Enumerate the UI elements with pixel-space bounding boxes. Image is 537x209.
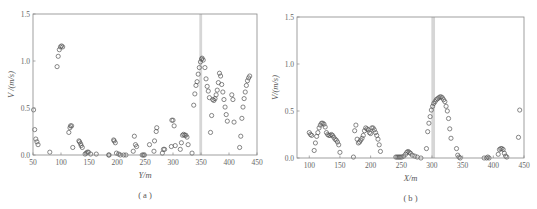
data-point bbox=[222, 97, 226, 101]
data-point bbox=[354, 123, 358, 127]
plot-frame bbox=[33, 14, 257, 155]
data-point bbox=[454, 147, 458, 151]
data-point bbox=[427, 121, 431, 125]
y-tick-label: 1.5 bbox=[285, 13, 295, 22]
x-tick-label: 350 bbox=[195, 158, 207, 167]
data-point bbox=[223, 105, 227, 109]
data-point bbox=[241, 105, 245, 109]
data-point bbox=[179, 141, 183, 145]
data-point bbox=[231, 97, 235, 101]
data-point bbox=[203, 65, 207, 69]
data-point bbox=[444, 104, 448, 108]
chart-caption: ( a ) bbox=[138, 190, 152, 200]
x-tick-label: 250 bbox=[139, 158, 151, 167]
data-point bbox=[215, 88, 219, 92]
x-tick-label: 200 bbox=[111, 158, 123, 167]
data-point bbox=[313, 141, 317, 145]
data-point bbox=[243, 90, 247, 94]
x-axis-label: Y/m bbox=[138, 170, 151, 180]
x-tick-label: 50 bbox=[29, 158, 37, 167]
data-point bbox=[376, 137, 380, 141]
data-point bbox=[244, 83, 248, 87]
data-point bbox=[413, 154, 417, 158]
scatter-points bbox=[307, 95, 522, 160]
x-axis-label: X/m bbox=[403, 173, 418, 183]
x-tick-label: 150 bbox=[334, 161, 346, 170]
data-point bbox=[369, 131, 373, 135]
data-point bbox=[316, 131, 320, 135]
y-tick-label: 1.0 bbox=[21, 57, 31, 66]
data-point bbox=[448, 127, 452, 131]
x-tick-label: 450 bbox=[518, 161, 530, 170]
data-point bbox=[67, 130, 71, 134]
data-point bbox=[71, 145, 75, 149]
data-point bbox=[221, 90, 225, 94]
data-point bbox=[178, 147, 182, 151]
data-point bbox=[208, 130, 212, 134]
data-point bbox=[204, 77, 208, 81]
data-point bbox=[496, 152, 500, 156]
data-point bbox=[193, 92, 197, 96]
x-tick-label: 400 bbox=[223, 158, 235, 167]
data-point bbox=[449, 136, 453, 140]
chart-b: 100150200250300350400450 0.00.51.01.5 X/… bbox=[270, 13, 530, 204]
data-point bbox=[242, 97, 246, 101]
data-point bbox=[190, 151, 194, 155]
x-tick-label: 100 bbox=[304, 161, 316, 170]
y-tick-label: 0.0 bbox=[21, 151, 31, 160]
x-tick-label: 150 bbox=[83, 158, 95, 167]
y-axis-label: V/(m/s) bbox=[270, 75, 280, 100]
figure-canvas: 50100150200250300350400450 0.00.51.01.5 … bbox=[0, 0, 537, 209]
data-point bbox=[205, 84, 209, 88]
shaded-band bbox=[431, 17, 435, 158]
data-point bbox=[210, 113, 214, 117]
data-point bbox=[31, 108, 35, 112]
x-tick-label: 200 bbox=[365, 161, 377, 170]
data-point bbox=[518, 108, 522, 112]
data-point bbox=[147, 143, 151, 147]
data-point bbox=[338, 150, 342, 154]
data-point bbox=[173, 144, 177, 148]
data-point bbox=[152, 149, 156, 153]
data-point bbox=[206, 89, 210, 93]
data-point bbox=[230, 93, 234, 97]
x-tick-label: 450 bbox=[251, 158, 263, 167]
data-point bbox=[152, 139, 156, 143]
data-point bbox=[232, 120, 236, 124]
data-point bbox=[238, 145, 242, 149]
data-point bbox=[224, 112, 228, 116]
data-point bbox=[94, 152, 98, 156]
data-point bbox=[55, 65, 59, 69]
data-point bbox=[516, 135, 520, 139]
shaded-band bbox=[199, 14, 202, 155]
data-point bbox=[131, 149, 135, 153]
data-point bbox=[132, 134, 136, 138]
x-tick-label: 250 bbox=[396, 161, 408, 170]
data-point bbox=[424, 147, 428, 151]
data-point bbox=[353, 129, 357, 133]
data-point bbox=[505, 155, 509, 159]
data-point bbox=[351, 155, 355, 159]
chart-caption: ( b ) bbox=[403, 193, 417, 203]
data-point bbox=[239, 134, 243, 138]
x-tick-label: 300 bbox=[167, 158, 179, 167]
data-point bbox=[169, 144, 173, 148]
data-point bbox=[377, 143, 381, 147]
y-tick-label: 0.0 bbox=[285, 154, 295, 163]
data-point bbox=[220, 82, 224, 86]
data-point bbox=[195, 80, 199, 84]
chart-a: 50100150200250300350400450 0.00.51.01.5 … bbox=[6, 10, 263, 201]
y-tick-label: 0.5 bbox=[285, 107, 295, 116]
data-point bbox=[56, 54, 60, 58]
data-point bbox=[426, 130, 430, 134]
data-point bbox=[445, 109, 449, 113]
data-point bbox=[310, 133, 314, 137]
data-point bbox=[192, 103, 196, 107]
y-axis-label: V /(m/s) bbox=[6, 71, 16, 98]
x-tick-label: 350 bbox=[457, 161, 469, 170]
data-point bbox=[240, 116, 244, 120]
data-point bbox=[172, 124, 176, 128]
y-tick-label: 1.5 bbox=[21, 10, 31, 19]
x-tick-label: 300 bbox=[426, 161, 438, 170]
data-point bbox=[48, 150, 52, 154]
